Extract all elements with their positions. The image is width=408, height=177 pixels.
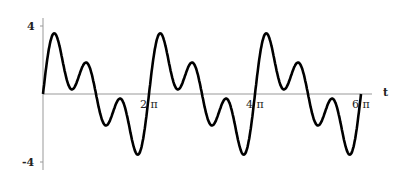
chart: 4 -4 2 π 4 π 6 π t — [0, 0, 408, 177]
x-axis-label: t — [383, 86, 389, 99]
y-tick-neg4: -4 — [22, 156, 35, 169]
y-tick-4: 4 — [27, 20, 35, 33]
